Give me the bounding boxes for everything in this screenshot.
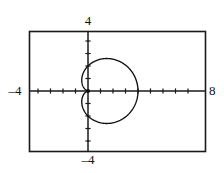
y-min-label: –4 [0,153,176,166]
cusp-point-marker [86,89,90,93]
x-min-label: –4 [4,84,26,97]
x-max-label: 8 [209,84,223,97]
y-max-label: 4 [0,14,176,27]
calculator-graph-screen: 4 –4 –4 8 [0,0,224,173]
